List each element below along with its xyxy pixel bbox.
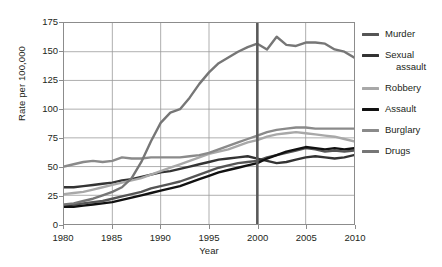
- y-axis-tick-mark: [59, 80, 63, 81]
- y-axis-tick-label: 100: [24, 104, 58, 114]
- x-axis-title: Year: [63, 245, 355, 256]
- legend-swatch-icon: [362, 54, 379, 57]
- y-axis-tick-label: 125: [24, 75, 58, 85]
- x-axis-tick-label: 1985: [90, 232, 134, 243]
- y-axis-tick-label: 150: [24, 46, 58, 56]
- legend-swatch-icon: [362, 150, 379, 153]
- x-axis-tick-label: 1980: [41, 232, 85, 243]
- legend-item-label: Sexualassault: [385, 49, 426, 72]
- legend-item-drugs[interactable]: Drugs: [362, 145, 442, 157]
- y-axis-tick-mark: [59, 51, 63, 52]
- legend-item-label-line2: assault: [385, 61, 426, 73]
- y-axis-tick-label: 0: [24, 220, 58, 230]
- legend-item-label: Assault: [385, 103, 416, 115]
- series-canvas: [64, 23, 354, 224]
- x-axis-tick-label: 1995: [187, 232, 231, 243]
- legend-item-label: Burglary: [385, 124, 420, 136]
- x-axis-tick-mark: [355, 225, 356, 229]
- legend-swatch-icon: [362, 87, 379, 90]
- legend-swatch-icon: [362, 129, 379, 132]
- legend-item-label: Robbery: [385, 82, 421, 94]
- legend-item-label: Drugs: [385, 145, 410, 157]
- x-axis-tick-label: 2010: [333, 232, 377, 243]
- legend-item-robbery[interactable]: Robbery: [362, 82, 442, 94]
- y-axis-tick-label: 175: [24, 17, 58, 27]
- legend-item-burglary[interactable]: Burglary: [362, 124, 442, 136]
- x-axis-tick-mark: [209, 225, 210, 229]
- plot-area: [63, 22, 355, 225]
- y-axis-tick-labels: 0255075100125150175: [22, 0, 58, 228]
- x-axis-tick-mark: [306, 225, 307, 229]
- legend-item-sexual[interactable]: Sexualassault: [362, 49, 442, 72]
- y-axis-tick-label: 50: [24, 162, 58, 172]
- y-axis-tick-mark: [59, 196, 63, 197]
- x-axis-tick-label: 2000: [236, 232, 280, 243]
- legend-swatch-icon: [362, 108, 379, 111]
- y-axis-tick-mark: [59, 138, 63, 139]
- y-axis-tick-label: 75: [24, 133, 58, 143]
- y-axis-tick-label: 25: [24, 191, 58, 201]
- x-axis-tick-mark: [112, 225, 113, 229]
- y-axis-tick-mark: [59, 167, 63, 168]
- x-axis-tick-mark: [160, 225, 161, 229]
- crime-rate-line-chart: Rate per 100,000 0255075100125150175 Yea…: [0, 0, 442, 267]
- x-axis-tick-mark: [63, 225, 64, 229]
- x-axis-tick-label: 1990: [138, 232, 182, 243]
- y-axis-tick-mark: [59, 109, 63, 110]
- legend-item-murder[interactable]: Murder: [362, 28, 442, 40]
- legend-item-assault[interactable]: Assault: [362, 103, 442, 115]
- legend: MurderSexualassaultRobberyAssaultBurglar…: [362, 28, 442, 166]
- x-axis-tick-mark: [258, 225, 259, 229]
- legend-item-label: Murder: [385, 28, 415, 40]
- legend-swatch-icon: [362, 33, 379, 36]
- x-axis-tick-label: 2005: [284, 232, 328, 243]
- y-axis-tick-mark: [59, 22, 63, 23]
